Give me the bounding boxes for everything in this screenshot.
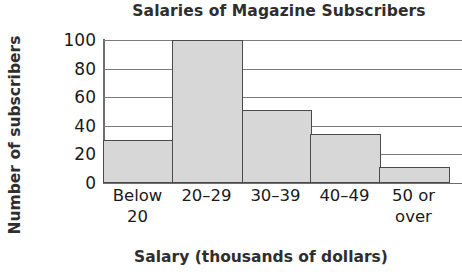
y-tick-label: 60 <box>34 89 96 106</box>
bar <box>241 110 312 183</box>
y-axis-label: Number of subscribers <box>6 36 24 235</box>
x-axis-tick-labels: Below2020–2930–3940–4950 orover <box>103 186 462 242</box>
bar-series <box>103 40 462 183</box>
chart-title: Salaries of Magazine Subscribers <box>96 2 462 20</box>
y-tick-label: 100 <box>34 32 96 49</box>
y-tick-label: 0 <box>34 175 96 192</box>
bar <box>103 140 174 183</box>
bar <box>172 40 243 183</box>
y-tick-label: 20 <box>34 146 96 163</box>
x-tick-label: 50 orover <box>371 186 456 227</box>
plot-area <box>103 40 462 183</box>
bar-chart: Salaries of Magazine Subscribers Number … <box>0 0 462 272</box>
y-tick-label: 40 <box>34 117 96 134</box>
y-tick-label: 80 <box>34 60 96 77</box>
bar <box>310 134 381 183</box>
bar <box>379 167 450 183</box>
y-axis-label-container: Number of subscribers <box>0 28 30 242</box>
x-axis-label: Salary (thousands of dollars) <box>60 248 462 266</box>
y-axis-tick-labels: 020406080100 <box>34 0 96 272</box>
